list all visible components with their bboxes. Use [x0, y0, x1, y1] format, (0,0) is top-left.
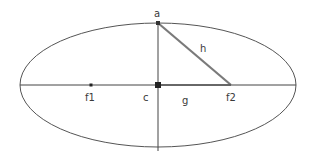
- point-f1-marker: [90, 84, 93, 87]
- point-a-marker: [156, 21, 160, 25]
- point-c-marker: [155, 82, 161, 88]
- label-f2: f2: [226, 93, 236, 103]
- ellipse-diagram: [0, 0, 310, 160]
- label-g: g: [182, 96, 188, 106]
- label-c: c: [143, 93, 149, 103]
- label-h: h: [200, 44, 206, 54]
- label-f1: f1: [85, 93, 95, 103]
- label-a: a: [154, 9, 160, 19]
- segment-h: [158, 23, 231, 85]
